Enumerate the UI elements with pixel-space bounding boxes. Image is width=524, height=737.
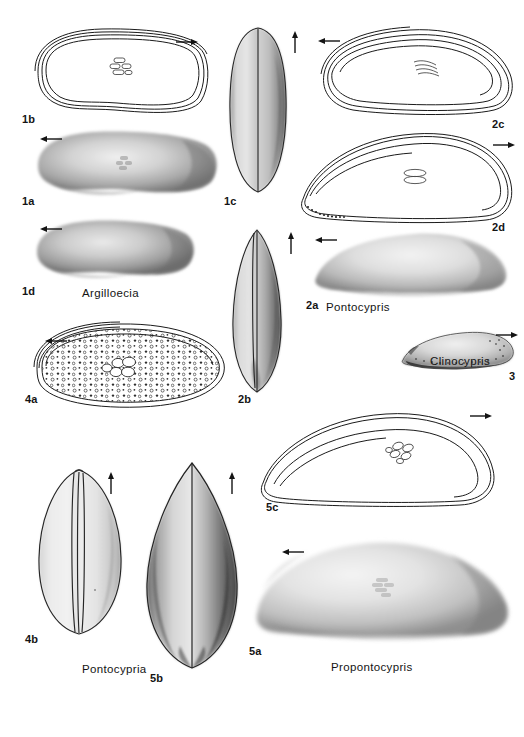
figure-label-2c: 2c [492, 119, 505, 130]
illustration-plate: 1b 1a 1d 1c 2c 2d 2a 2b 3 4a 4b 5c 5b 5a… [0, 0, 524, 737]
figure-label-5b: 5b [150, 673, 163, 684]
orientation-arrow-right-1b [176, 38, 198, 46]
orientation-arrow-right-2d [493, 141, 515, 149]
orientation-arrow-up-4b [107, 472, 115, 494]
specimen-2d-outline-lateral [298, 128, 514, 224]
orientation-arrow-left-2c [318, 37, 340, 45]
figure-label-4a: 4a [25, 394, 38, 405]
figure-label-1b: 1b [22, 114, 35, 125]
genus-name-propontocypris: Propontocypris [331, 662, 413, 674]
specimen-2c-outline-lateral [318, 26, 514, 118]
specimen-1c-dorsal [227, 25, 289, 197]
specimen-2b-dorsal [228, 228, 286, 394]
figure-label-1c: 1c [224, 196, 237, 207]
orientation-arrow-right-5c [470, 412, 492, 420]
orientation-arrow-left-1d [40, 225, 62, 233]
figure-label-2b: 2b [238, 394, 251, 405]
orientation-arrow-up-1c [291, 31, 299, 53]
figure-label-1a: 1a [22, 196, 35, 207]
orientation-arrow-left-5a [282, 548, 304, 556]
genus-name-pontocypria: Pontocypria [82, 664, 147, 676]
specimen-5c-outline-lateral [260, 412, 496, 508]
figure-label-4b: 4b [25, 634, 38, 645]
figure-label-2a: 2a [306, 300, 319, 311]
orientation-arrow-right-3 [496, 331, 518, 339]
figure-label-2d: 2d [492, 222, 505, 233]
genus-name-pontocypris: Pontocypris [326, 302, 390, 314]
genus-name-clinocypris: Clinocypris [430, 356, 490, 368]
orientation-arrow-left-4a [45, 337, 67, 345]
figure-label-3: 3 [509, 371, 515, 382]
orientation-arrow-left-2a [315, 236, 337, 244]
orientation-arrow-left-1a [40, 135, 62, 143]
orientation-arrow-up-2b [287, 232, 295, 254]
figure-label-5a: 5a [249, 646, 262, 657]
specimen-4a-outline-lateral [28, 322, 228, 410]
genus-name-argilloecia: Argilloecia [82, 288, 139, 300]
orientation-arrow-up-5b [228, 472, 236, 494]
specimen-2a-lateral [310, 228, 514, 296]
figure-label-1d: 1d [22, 286, 35, 297]
figure-label-5c: 5c [266, 502, 279, 513]
